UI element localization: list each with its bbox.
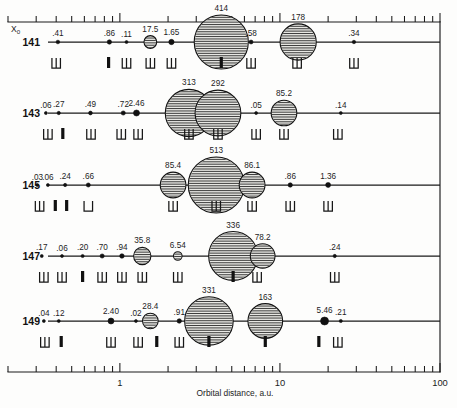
chart-row: 141.41.86.1117.51.65414.58178.34 [22,4,440,69]
point-value-label: .91 [174,308,186,317]
point-value-label: 513 [209,146,223,155]
dot-marker [36,184,39,187]
point-value-label: 331 [202,286,216,295]
point-value-label: 6.54 [170,241,186,250]
point-value-label: 86.1 [244,161,260,170]
bubble-marker [280,24,316,60]
point-value-label: .05 [250,101,262,110]
data-point: 17.5 [142,25,158,49]
point-value-label: .14 [335,101,347,110]
x-axis-tick-label: 100 [432,377,448,388]
dot-marker [134,320,137,323]
chart-row: 143.06.27.49.722.46313292.0585.2.14 [22,78,440,139]
data-point: 28.4 [142,302,158,329]
point-value-label: 17.5 [142,25,158,34]
data-point: 85.2 [271,89,297,126]
data-point: 6.54 [170,241,186,261]
dot-marker [326,183,331,188]
point-value-label: 2.46 [129,99,145,108]
dot-marker [81,254,84,257]
dot-marker [249,40,253,44]
point-value-label: 336 [226,221,240,230]
dot-marker [125,41,128,44]
data-point: 178 [280,13,316,60]
row-label: 141 [22,36,40,48]
data-point: 163 [248,293,283,339]
x-axis-title: Orbital distance, a.u. [197,388,274,398]
dot-marker [133,110,139,116]
dot-marker [44,112,47,115]
data-point: 78.2 [250,233,275,269]
data-point: 85.4 [160,161,186,198]
data-point: 5.46 [317,306,333,325]
point-value-label: .49 [85,100,97,109]
point-value-label: .06 [42,173,54,182]
dot-marker [86,183,90,187]
chart-canvas: 110100Orbital distance, a.u.X0141.41.86.… [0,0,457,408]
u-mark [84,201,93,211]
dot-marker [42,320,45,323]
point-value-label: .11 [121,30,132,39]
dot-marker [177,319,181,323]
point-value-label: 178 [291,13,305,22]
data-point: 86.1 [239,161,265,198]
point-value-label: .86 [104,29,116,38]
point-value-label: .34 [348,29,360,38]
point-value-label: 313 [182,78,196,87]
dot-marker [89,111,93,115]
point-value-label: .41 [52,29,64,38]
dot-marker [169,39,174,44]
point-value-label: .86 [285,172,297,181]
point-value-label: .17 [36,243,48,252]
data-point: 292 [195,79,241,136]
point-value-label: .04 [38,309,50,318]
dot-marker [46,184,49,187]
dot-marker [61,255,64,258]
dot-marker [107,40,111,44]
point-value-label: .70 [96,243,108,252]
point-value-label: 85.4 [165,161,181,170]
dot-marker [64,183,67,186]
point-value-label: 5.46 [317,306,333,315]
point-value-label: .27 [53,100,65,109]
x-axis-tick-label: 1 [117,377,122,388]
dot-marker [40,254,43,257]
dot-marker [100,254,104,258]
orbital-distance-bubble-chart: 110100Orbital distance, a.u.X0141.41.86.… [0,0,457,408]
point-value-label: .58 [245,29,257,38]
dot-marker [352,40,355,43]
dot-marker [339,319,342,322]
point-value-label: .06 [40,101,52,110]
point-value-label: .24 [59,172,71,181]
dot-marker [121,111,125,115]
dot-marker [333,254,336,257]
point-value-label: .94 [116,243,128,252]
point-value-label: 1.36 [320,172,336,181]
point-value-label: 2.40 [103,307,119,316]
point-value-label: .21 [335,308,347,317]
dot-marker [339,112,342,115]
bubble-marker [144,36,157,49]
dot-marker [57,320,60,323]
point-value-label: .12 [53,309,65,318]
chart-row: 145.03.06.24.6685.451386.1.861.36 [22,146,440,213]
chart-row: 149.04.122.40.0228.4.913311635.46.21 [22,286,440,347]
dot-marker [255,112,258,115]
point-value-label: 85.2 [276,89,292,98]
dot-marker [57,111,60,114]
point-value-label: .66 [83,172,95,181]
chart-row: 147.17.06.20.70.9435.86.5433678.2.24 [22,221,440,282]
point-value-label: 1.65 [163,28,179,37]
point-value-label: .20 [77,243,89,252]
point-value-label: 414 [214,4,228,13]
dot-marker [108,318,114,324]
y-axis-label: X0 [11,24,21,35]
row-label: 143 [22,107,40,119]
point-value-label: 78.2 [255,233,271,242]
point-value-label: 28.4 [142,302,158,311]
dot-marker [321,317,329,325]
dot-marker [288,183,292,187]
point-value-label: .06 [56,244,68,253]
x-axis-tick-label: 10 [275,377,285,388]
dot-marker [56,40,60,44]
